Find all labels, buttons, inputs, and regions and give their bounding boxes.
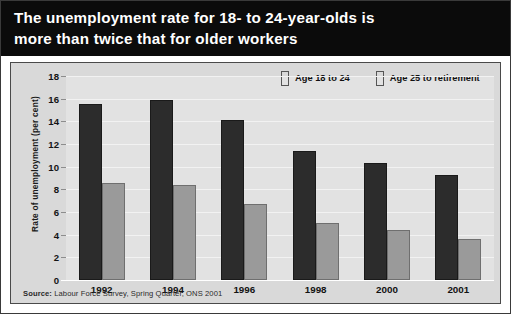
- x-tick-label: 2000: [352, 284, 422, 295]
- x-tick-label: 1998: [281, 284, 351, 295]
- source-prefix: Source:: [23, 289, 52, 298]
- bar: [79, 104, 102, 280]
- bar-group: [79, 76, 125, 280]
- chart-figure: The unemployment rate for 18- to 24-year…: [0, 0, 511, 314]
- source-text: Labour Force Survey, Spring Quarter, ONS…: [52, 289, 222, 298]
- bar: [316, 223, 339, 280]
- x-tick-label: 2001: [423, 284, 493, 295]
- bar: [244, 204, 267, 280]
- bar-group: [150, 76, 196, 280]
- bar: [221, 120, 244, 280]
- y-tick-label: 4: [29, 229, 59, 240]
- y-tick-label: 12: [29, 139, 59, 150]
- bar: [173, 185, 196, 280]
- y-tick-label: 14: [29, 116, 59, 127]
- bar: [387, 230, 410, 280]
- y-tick-label: 2: [29, 252, 59, 263]
- title-banner: The unemployment rate for 18- to 24-year…: [1, 1, 510, 56]
- y-tick-label: 0: [29, 275, 59, 286]
- source-note: Source: Labour Force Survey, Spring Quar…: [23, 289, 222, 298]
- bar-group: [435, 76, 481, 280]
- y-tick-label: 8: [29, 184, 59, 195]
- bar: [435, 175, 458, 280]
- bars-layer: [66, 76, 494, 280]
- bar-group: [364, 76, 410, 280]
- y-tick-label: 16: [29, 93, 59, 104]
- y-tick-label: 10: [29, 161, 59, 172]
- page-title: The unemployment rate for 18- to 24-year…: [14, 7, 500, 49]
- bar-group: [221, 76, 267, 280]
- bar: [150, 100, 173, 280]
- bar: [102, 183, 125, 280]
- bar: [458, 239, 481, 280]
- bar-group: [293, 76, 339, 280]
- bar: [364, 163, 387, 280]
- chart-plot-frame: Age 18 to 24 Age 25 to retirement Rate o…: [10, 62, 501, 304]
- y-tick-label: 6: [29, 207, 59, 218]
- bar: [293, 151, 316, 280]
- x-axis-line: [61, 280, 494, 281]
- y-tick-label: 18: [29, 71, 59, 82]
